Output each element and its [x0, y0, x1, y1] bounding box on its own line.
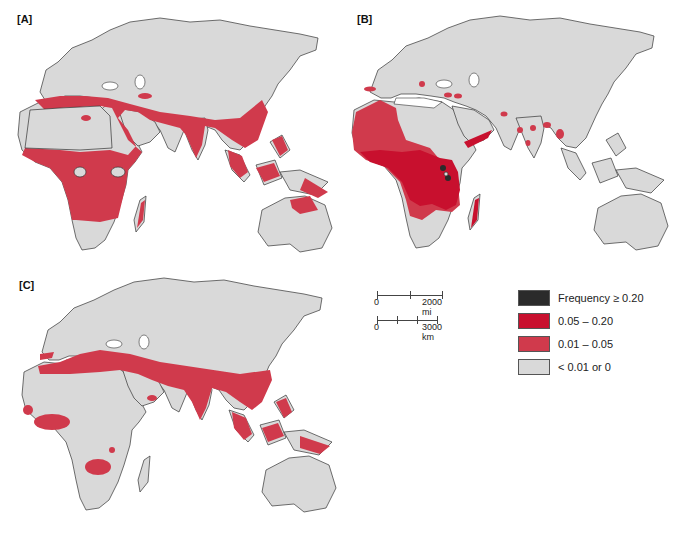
legend-swatch-mid: [518, 313, 550, 329]
legend-label-high: Frequency ≥ 0.20: [558, 292, 644, 304]
scale-miles-start: 0: [374, 297, 379, 307]
legend-item-mid: 0.05 – 0.20: [518, 309, 644, 332]
scale-km: 0 3000 km: [374, 312, 444, 333]
legend-label-mid: 0.05 – 0.20: [558, 315, 613, 327]
legend-label-low: 0.01 – 0.05: [558, 338, 613, 350]
scale-miles: 0 2000 mi: [374, 287, 444, 308]
legend-item-none: < 0.01 or 0: [518, 355, 644, 378]
legend-label-none: < 0.01 or 0: [558, 361, 611, 373]
legend-item-low: 0.01 – 0.05: [518, 332, 644, 355]
world-map-a: [0, 0, 340, 270]
legend-swatch-low: [518, 336, 550, 352]
world-map-c: [0, 270, 370, 546]
scale-bar: 0 2000 mi 0 3000 km: [374, 287, 444, 333]
legend-swatch-high: [518, 290, 550, 306]
map-panel-b: [B]: [340, 0, 676, 270]
scale-km-end: 3000 km: [422, 322, 444, 342]
map-panel-c: [C]: [0, 270, 370, 546]
world-map-b: [340, 0, 676, 270]
map-panel-a: [A]: [0, 0, 340, 270]
legend-item-high: Frequency ≥ 0.20: [518, 286, 644, 309]
legend-swatch-none: [518, 359, 550, 375]
legend: Frequency ≥ 0.20 0.05 – 0.20 0.01 – 0.05…: [518, 286, 644, 378]
scale-km-start: 0: [374, 322, 379, 332]
